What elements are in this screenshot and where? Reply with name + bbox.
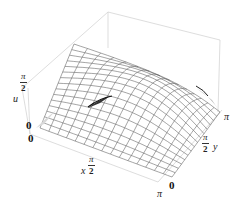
- surface-mesh: [40, 44, 220, 177]
- y-tick-pi-over-2: π 2: [202, 133, 209, 154]
- y-tick-num: π: [202, 133, 209, 144]
- surface-plot: [0, 0, 242, 206]
- x-tick-zero: 0: [28, 133, 34, 144]
- x-tick-den: 2: [89, 166, 94, 176]
- x-tick-num: π: [88, 155, 95, 166]
- x-axis-label: x: [81, 166, 85, 176]
- z-tick-zero: 0: [26, 120, 32, 131]
- x-tick-pi: π: [157, 189, 162, 199]
- x-tick-pi-over-2: π 2: [88, 155, 95, 176]
- z-tick-den: 2: [21, 83, 26, 93]
- bounding-box: [22, 12, 222, 182]
- y-tick-pi: π: [224, 112, 229, 122]
- y-tick-zero: 0: [169, 180, 175, 191]
- y-axis-label: y: [213, 142, 217, 152]
- z-tick-pi-over-2: π 2: [20, 72, 27, 93]
- y-tick-den: 2: [203, 144, 208, 154]
- z-axis-label: u: [13, 94, 18, 104]
- z-tick-num: π: [20, 72, 27, 83]
